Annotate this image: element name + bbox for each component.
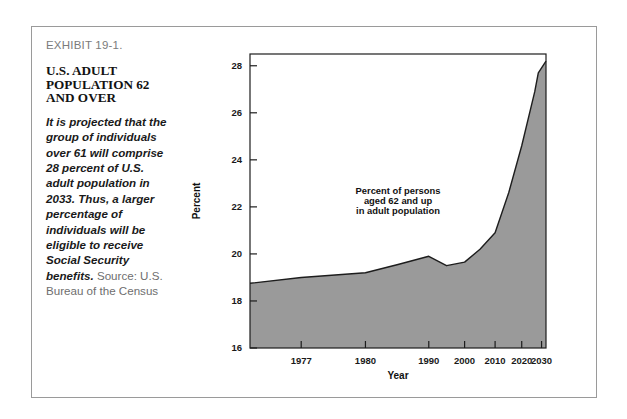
y-axis-tick-label: 16 [231, 342, 242, 353]
exhibit-title-line-3: AND OVER [46, 91, 174, 105]
y-axis-tick-label: 26 [231, 107, 242, 118]
x-axis-tick-label: 1977 [291, 355, 312, 366]
chart-area: 16182022242628 1977198019902000201020202… [166, 27, 598, 399]
area-chart: 16182022242628 1977198019902000201020202… [166, 27, 598, 399]
x-axis-tick-label: 2030 [531, 355, 552, 366]
x-axis-title: Year [387, 370, 408, 381]
exhibit-title-line-1: U.S. ADULT [46, 64, 174, 78]
plot-annotation: Percent of persons aged 62 and up in adu… [356, 185, 441, 216]
exhibit-card: EXHIBIT 19-1. U.S. ADULT POPULATION 62 A… [31, 26, 597, 398]
y-axis-tick-label: 20 [231, 248, 242, 259]
exhibit-description-text: It is projected that the group of indivi… [46, 115, 166, 282]
y-axis-tick-label: 22 [231, 201, 242, 212]
y-axis-tick-label: 28 [231, 60, 242, 71]
x-axis-tick-label: 2010 [485, 355, 506, 366]
x-axis-tick-label: 1980 [355, 355, 376, 366]
caption-column: EXHIBIT 19-1. U.S. ADULT POPULATION 62 A… [46, 39, 174, 299]
y-axis-title: Percent [191, 182, 202, 219]
exhibit-description: It is projected that the group of indivi… [46, 114, 174, 299]
x-axis-tick-label: 2020 [511, 355, 532, 366]
y-axis-tick-label: 18 [231, 295, 242, 306]
exhibit-number: EXHIBIT 19-1. [46, 39, 174, 51]
exhibit-title: U.S. ADULT POPULATION 62 AND OVER [46, 64, 174, 105]
x-axis-tick-label: 2000 [454, 355, 475, 366]
exhibit-title-line-2: POPULATION 62 [46, 78, 174, 92]
y-axis-tick-label: 24 [231, 154, 242, 165]
plot-annotation-line-3: in adult population [356, 205, 440, 216]
x-axis-tick-label: 1990 [418, 355, 439, 366]
